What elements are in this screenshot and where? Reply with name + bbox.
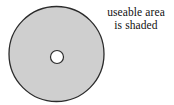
caption-line-1: useable area bbox=[98, 6, 174, 19]
caption-line-2: is shaded bbox=[98, 19, 174, 32]
figure-container: useable area is shaded bbox=[0, 0, 174, 105]
caption-block: useable area is shaded bbox=[98, 6, 174, 32]
center-hole bbox=[51, 51, 64, 64]
